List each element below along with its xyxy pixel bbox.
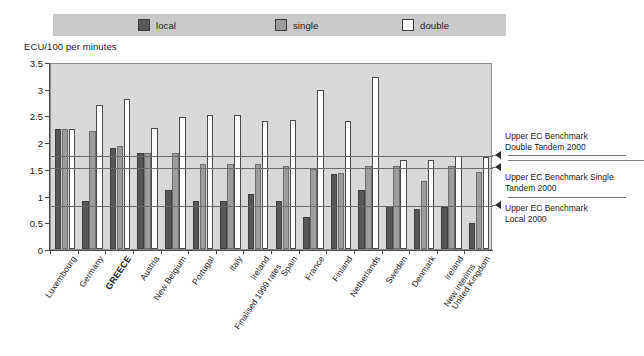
y-tick-label-6: 3 (38, 84, 43, 95)
y-tick-label-2: 1 (38, 191, 43, 202)
bar-double-13 (428, 160, 435, 249)
legend-swatch-double (402, 19, 414, 31)
y-tick-label-5: 2.5 (30, 111, 43, 122)
bar-double-7 (262, 121, 269, 249)
y-tick-5 (45, 116, 50, 117)
x-category-label-2: GREECE (103, 254, 133, 292)
x-category-label-10: Finland (330, 254, 354, 283)
bar-single-10 (338, 173, 345, 249)
benchmark-line-double-tandem (51, 156, 493, 157)
x-category-label-13: Denmark (409, 254, 437, 289)
bar-single-8 (283, 166, 290, 249)
bar-single-11 (365, 166, 372, 249)
y-tick-4 (45, 143, 50, 144)
bar-single-0 (62, 129, 69, 249)
bar-single-13 (421, 181, 428, 249)
bar-double-12 (400, 160, 407, 249)
bar-local-9 (303, 217, 310, 249)
x-category-label-3: Austria (138, 254, 161, 282)
x-category-label-8: Spain (278, 254, 299, 278)
y-axis-title: ECU/100 per minutes (24, 41, 117, 52)
benchmark-annotation-double-tandem: Upper EC BenchmarkDouble Tandem 2000 (505, 131, 588, 152)
x-tick-10 (326, 250, 327, 254)
bar-local-13 (414, 209, 421, 249)
bar-double-2 (124, 99, 131, 249)
bar-local-4 (165, 190, 172, 249)
benchmark-annotation-single-tandem-line1: Upper EC Benchmark Single (505, 172, 614, 183)
bar-double-0 (69, 129, 76, 249)
x-tick-9 (299, 250, 300, 254)
bar-local-5 (193, 201, 200, 249)
y-tick-label-4: 2 (38, 138, 43, 149)
benchmark-annotation-local-line2: Local 2000 (505, 214, 588, 225)
chart-legend: local single double (53, 14, 506, 36)
plot-area (51, 64, 491, 249)
x-tick-4 (161, 250, 162, 254)
bar-double-1 (96, 105, 103, 249)
bar-single-14 (448, 166, 455, 249)
x-tick-11 (354, 250, 355, 254)
bar-local-8 (276, 201, 283, 249)
benchmark-underline-single-tandem (508, 160, 644, 161)
benchmark-annotation-single-tandem: Upper EC Benchmark SingleTandem 2000 (505, 172, 614, 193)
bar-local-6 (220, 201, 227, 249)
legend-swatch-single (275, 19, 287, 31)
legend-item-local: local (138, 19, 176, 31)
legend-swatch-local (138, 19, 150, 31)
bar-double-9 (317, 90, 324, 249)
benchmark-underline-double-tandem (508, 155, 626, 156)
x-category-label-6: Italy (227, 254, 244, 273)
benchmark-line-single-tandem (51, 168, 493, 169)
x-category-label-12: Sweden (384, 254, 410, 286)
x-tick-8 (271, 250, 272, 254)
x-tick-1 (78, 250, 79, 254)
x-tick-14 (437, 250, 438, 254)
bar-double-4 (179, 117, 186, 250)
bar-single-15 (476, 172, 483, 249)
y-tick-label-0: 0 (38, 245, 43, 256)
legend-item-double: double (402, 19, 449, 31)
x-axis (49, 250, 493, 251)
bar-double-10 (345, 121, 352, 249)
x-category-label-1: Germany (77, 254, 105, 289)
x-tick-12 (382, 250, 383, 254)
x-category-label-0: Luxembourg (43, 254, 78, 300)
y-tick-label-1: 0.5 (30, 218, 43, 229)
bar-local-15 (469, 223, 476, 249)
bar-local-10 (331, 174, 338, 249)
bar-single-12 (393, 166, 400, 249)
y-axis: 00.511.522.533.5 (49, 63, 50, 250)
y-tick-6 (45, 90, 50, 91)
x-tick-0 (50, 250, 51, 254)
legend-item-single: single (275, 19, 318, 31)
x-tick-15 (464, 250, 465, 254)
x-tick-13 (409, 250, 410, 254)
benchmark-line-local (51, 206, 493, 207)
bar-double-11 (372, 77, 379, 249)
benchmark-underline-local (508, 197, 626, 198)
bar-local-7 (248, 194, 255, 249)
y-tick-3 (45, 170, 50, 171)
bar-double-6 (234, 115, 241, 249)
bar-double-5 (207, 115, 214, 249)
benchmark-annotation-double-tandem-line1: Upper EC Benchmark (505, 131, 588, 142)
bar-double-15 (483, 157, 490, 249)
y-tick-label-3: 1.5 (30, 164, 43, 175)
x-category-label-9: France (303, 254, 326, 282)
x-tick-5 (188, 250, 189, 254)
x-tick-2 (105, 250, 106, 254)
benchmark-annotation-single-tandem-line2: Tandem 2000 (505, 183, 614, 194)
legend-label-local: local (156, 20, 176, 31)
y-tick-7 (45, 63, 50, 64)
y-tick-label-7: 3.5 (30, 58, 43, 69)
y-tick-1 (45, 223, 50, 224)
bar-single-2 (117, 146, 124, 249)
benchmark-annotation-local: Upper EC BenchmarkLocal 2000 (505, 203, 588, 224)
y-tick-2 (45, 197, 50, 198)
legend-label-double: double (420, 20, 449, 31)
plot-frame (50, 63, 492, 250)
legend-label-single: single (293, 20, 318, 31)
bar-local-1 (82, 201, 89, 249)
x-tick-7 (243, 250, 244, 254)
bar-local-11 (358, 190, 365, 249)
